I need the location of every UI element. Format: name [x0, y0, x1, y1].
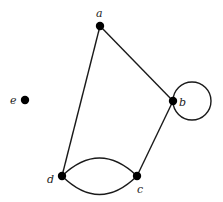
graph-diagram: a b c d e [0, 0, 223, 202]
node-b [169, 97, 177, 105]
label-a: a [96, 7, 103, 20]
edge-c-d-lower [62, 176, 137, 195]
label-e: e [10, 94, 17, 107]
node-d [58, 172, 66, 180]
label-c: c [137, 183, 143, 196]
label-d: d [47, 173, 54, 186]
edge-a-d [62, 26, 100, 176]
node-e [21, 96, 29, 104]
node-a [96, 22, 104, 30]
label-b: b [179, 96, 186, 109]
node-c [133, 172, 141, 180]
edge-c-d-upper [62, 158, 137, 176]
edge-a-b [100, 26, 173, 101]
edge-b-c [137, 101, 173, 176]
